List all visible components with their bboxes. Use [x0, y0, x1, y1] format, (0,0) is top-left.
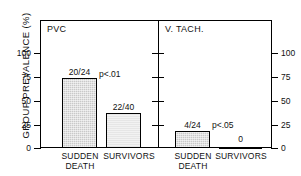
panel-title-pvc: PVC — [47, 24, 66, 34]
panel-title-vtach: V. TACH. — [165, 24, 204, 34]
y-tick-left-25 — [34, 125, 41, 126]
y-ticklabel-right-100: 100 — [281, 49, 301, 58]
y-tick-mid-25 — [152, 125, 164, 126]
y-tick-right-0 — [271, 148, 278, 149]
y-tick-left-75 — [34, 77, 41, 78]
y-ticklabel-right-0: 0 — [281, 144, 301, 153]
y-ticklabel-right-75: 75 — [281, 73, 301, 82]
bar-vtach-survivors — [219, 147, 262, 149]
bar-pvc-sudden-death — [62, 78, 97, 148]
y-ticklabel-left-25: 25 — [0, 121, 31, 130]
y-tick-left-50 — [34, 101, 41, 102]
bar-vtach-sudden-death — [175, 131, 210, 148]
y-ticklabel-left-75: 75 — [0, 73, 31, 82]
y-ticklabel-right-25: 25 — [281, 121, 301, 130]
x-label-vtach-survivors: SURVIVORS — [213, 151, 269, 161]
p-value-vtach: p<.05 — [212, 121, 234, 130]
p-value-pvc: p<.01 — [99, 70, 121, 79]
y-tick-mid-100 — [152, 53, 164, 54]
y-tick-left-100 — [34, 53, 41, 54]
panel-divider — [158, 20, 159, 148]
bar-value-vtach-survivors: 0 — [214, 135, 267, 144]
x-label-pvc-survivors: SURVIVORS — [101, 151, 157, 161]
x-label-pvc-sudden-death: SUDDEN DEATH — [53, 151, 107, 171]
bar-value-pvc-survivors: 22/40 — [97, 103, 150, 112]
y-ticklabel-left-50: 50 — [0, 97, 31, 106]
figure-root: GROUP PREVALENCE (%) 100 75 50 25 0 100 … — [0, 0, 301, 176]
y-tick-right-100 — [271, 53, 278, 54]
y-tick-right-75 — [271, 77, 278, 78]
x-label-vtach-sudden-death: SUDDEN DEATH — [166, 151, 220, 171]
bar-pvc-survivors — [106, 113, 141, 148]
y-tick-right-50 — [271, 101, 278, 102]
y-ticklabel-left-100: 100 — [0, 49, 31, 58]
y-tick-left-0 — [34, 148, 41, 149]
y-tick-mid-50 — [152, 101, 164, 102]
y-ticklabel-right-50: 50 — [281, 97, 301, 106]
y-tick-mid-75 — [152, 77, 164, 78]
y-ticklabel-left-0: 0 — [0, 144, 31, 153]
y-tick-right-25 — [271, 125, 278, 126]
